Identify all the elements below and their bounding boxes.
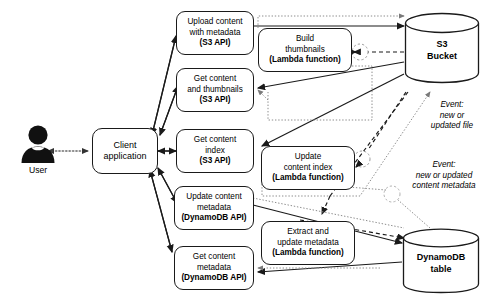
api-node-get-content-index[interactable]: Get content index (S3 API) <box>176 129 254 173</box>
store-dynamodb-table-line-1: DynamoDB <box>417 252 466 262</box>
api-node-update-content-metadata-api: (DynamoDB API) <box>181 213 246 223</box>
api-node-update-content-metadata-line-1: Update content <box>186 192 242 202</box>
lambda-node-build-thumbnails[interactable]: Build thumbnails (Lambda function) <box>258 28 352 72</box>
lambda-node-extract-update-metadata-line-1: Extract and <box>287 227 328 237</box>
client-application-line-1: Client <box>113 140 136 152</box>
api-node-get-content-thumbnails-api: (S3 API) <box>199 95 230 105</box>
api-node-update-content-metadata-line-2: metadata <box>197 203 231 213</box>
api-node-get-content-metadata[interactable]: Get content metadata (DynamoDB API) <box>174 246 254 290</box>
lambda-node-update-content-index-line-1: Update <box>295 152 321 162</box>
edge-build-thumbnails-return <box>258 66 372 120</box>
lambda-node-build-thumbnails-runtime: (Lambda function) <box>269 55 340 65</box>
api-node-get-content-metadata-line-1: Get content <box>193 252 235 262</box>
api-node-get-content-thumbnails[interactable]: Get content and thumbnails (S3 API) <box>176 68 254 112</box>
store-dynamodb-table[interactable]: DynamoDB table <box>402 228 480 294</box>
user-actor: User <box>8 124 68 175</box>
event-label-new-updated-file-line-2: new or <box>440 111 465 120</box>
api-node-get-content-metadata-api: (DynamoDB API) <box>181 273 246 283</box>
api-node-get-content-index-api: (S3 API) <box>199 156 230 166</box>
event-label-new-updated-file-line-3: updated file <box>431 121 473 130</box>
client-application-node[interactable]: Client application <box>92 128 158 174</box>
event-node-icon <box>352 44 368 60</box>
edge-s3-event-update-content-index <box>354 92 406 167</box>
api-node-update-content-metadata[interactable]: Update content metadata (DynamoDB API) <box>174 186 254 230</box>
lambda-node-build-thumbnails-line-1: Build <box>296 34 314 44</box>
event-label-new-updated-file-line-1: Event: <box>440 100 463 109</box>
edge-s3-get-content-index <box>262 74 404 146</box>
event-label-new-updated-file: Event: new or updated file <box>414 100 490 132</box>
api-node-get-content-thumbnails-line-2: and thumbnails <box>187 85 243 95</box>
edge-build-thumbnails-s3 <box>258 16 404 28</box>
api-node-get-content-index-line-2: index <box>205 146 225 156</box>
event-label-new-updated-metadata-line-1: Event: <box>432 160 455 169</box>
lambda-node-extract-update-metadata[interactable]: Extract and update metadata (Lambda func… <box>261 221 355 265</box>
client-application-line-2: application <box>103 151 146 163</box>
event-label-new-updated-metadata-line-2: new or updated <box>416 171 472 180</box>
user-avatar-icon <box>17 124 59 164</box>
lambda-node-update-content-index[interactable]: Update content index (Lambda function) <box>261 146 355 190</box>
event-label-new-updated-metadata: Event: new or updated content metadata <box>397 160 491 192</box>
api-node-upload-content-api: (S3 API) <box>199 38 230 48</box>
api-node-get-content-metadata-line-2: metadata <box>197 263 231 273</box>
lambda-node-update-content-index-line-2: content index <box>284 163 333 173</box>
event-label-new-updated-metadata-line-3: content metadata <box>412 181 475 190</box>
store-s3-bucket-line-1: S3 <box>436 39 447 49</box>
api-node-get-content-thumbnails-line-1: Get content <box>194 74 236 84</box>
store-s3-bucket[interactable]: S3 Bucket <box>404 12 480 84</box>
architecture-diagram: User Client application Upload content w… <box>0 0 491 298</box>
event-node-icon <box>354 151 370 167</box>
edge-client-get-content-metadata <box>150 170 172 252</box>
lambda-node-build-thumbnails-line-2: thumbnails <box>285 45 325 55</box>
api-node-upload-content-line-1: Upload content <box>187 17 242 27</box>
edge-s3-event-build-thumbnails <box>352 44 404 60</box>
user-label: User <box>29 165 47 175</box>
lambda-node-update-content-index-runtime: (Lambda function) <box>272 173 343 183</box>
lambda-node-extract-update-metadata-line-2: update metadata <box>277 238 338 248</box>
api-node-get-content-index-line-1: Get content <box>194 135 236 145</box>
store-dynamodb-table-label: DynamoDB table <box>417 252 466 275</box>
store-s3-bucket-line-2: Bucket <box>427 51 457 61</box>
api-node-upload-content[interactable]: Upload content with metadata (S3 API) <box>176 11 254 55</box>
store-dynamodb-table-line-2: table <box>430 264 451 274</box>
api-node-upload-content-line-2: with metadata <box>190 28 241 38</box>
edge-client-upload-content <box>152 36 176 135</box>
lambda-node-extract-update-metadata-runtime: (Lambda function) <box>272 248 343 258</box>
store-s3-bucket-label: S3 Bucket <box>427 39 457 62</box>
